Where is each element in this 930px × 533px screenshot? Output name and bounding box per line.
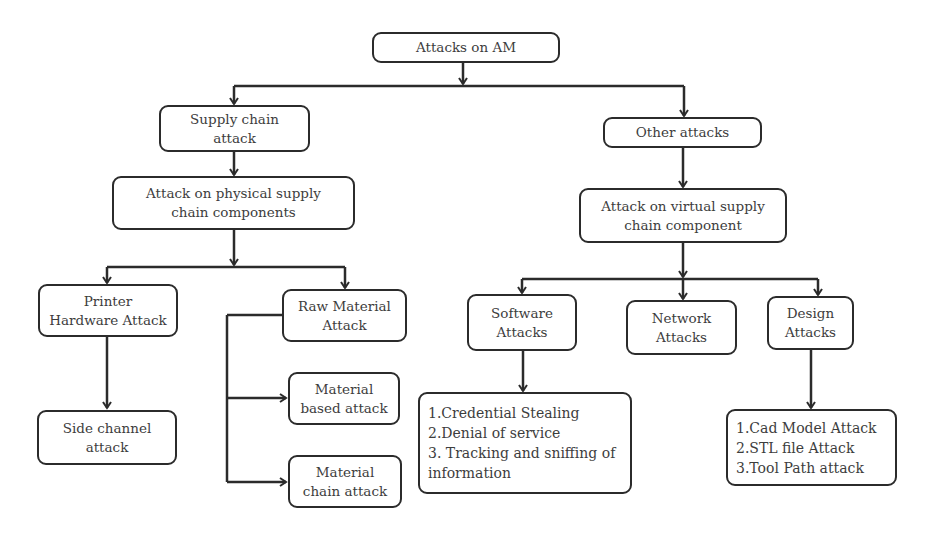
list-item: 3. Tracking and sniffing of (428, 443, 615, 463)
node-label: attack (86, 438, 129, 457)
node-label: Side channel (63, 419, 152, 438)
list-item: 2.Denial of service (428, 423, 560, 443)
node-other-attacks: Other attacks (603, 117, 762, 148)
node-label: Raw Material (298, 297, 391, 316)
node-label: Attacks (496, 323, 547, 342)
node-label: chain component (624, 216, 742, 235)
list-item: 1.Cad Model Attack (736, 418, 877, 438)
node-label: Attack on virtual supply (601, 197, 765, 216)
node-side-channel-attack: Side channel attack (37, 410, 177, 465)
node-label: Supply chain (190, 110, 279, 129)
list-item: information (428, 463, 511, 483)
node-label: Attack on physical supply (146, 184, 321, 203)
node-label: Network (652, 309, 712, 328)
node-raw-material-attack: Raw Material Attack (282, 289, 407, 342)
node-physical-supply-chain: Attack on physical supply chain componen… (112, 176, 355, 230)
list-item: 3.Tool Path attack (736, 458, 864, 478)
node-label: Hardware Attack (49, 311, 166, 330)
attack-taxonomy-diagram: Attacks on AM Supply chain attack Other … (0, 0, 930, 533)
node-label: chain attack (303, 482, 387, 501)
node-software-attacks: Software Attacks (467, 294, 577, 351)
node-network-attacks: Network Attacks (626, 300, 737, 355)
node-label: based attack (300, 399, 387, 418)
node-attacks-on-am: Attacks on AM (372, 32, 560, 63)
node-label: Other attacks (636, 123, 730, 142)
node-printer-hardware-attack: Printer Hardware Attack (38, 284, 178, 337)
node-virtual-supply-chain: Attack on virtual supply chain component (579, 188, 787, 243)
node-material-chain-attack: Material chain attack (288, 455, 402, 508)
node-label: Attacks (785, 323, 836, 342)
node-label: chain components (171, 203, 296, 222)
node-label: Material (316, 463, 374, 482)
node-label: Attacks (656, 328, 707, 347)
node-label: Attack (322, 316, 366, 335)
node-design-attacks: Design Attacks (767, 296, 854, 350)
node-supply-chain-attack: Supply chain attack (159, 105, 310, 152)
node-design-attack-list: 1.Cad Model Attack 2.STL file Attack 3.T… (726, 409, 897, 486)
node-label: Software (491, 304, 553, 323)
list-item: 2.STL file Attack (736, 438, 854, 458)
node-label: Attacks on AM (416, 38, 516, 57)
list-item: 1.Credential Stealing (428, 403, 579, 423)
node-software-attack-list: 1.Credential Stealing 2.Denial of servic… (418, 392, 632, 494)
node-label: Printer (84, 292, 132, 311)
node-label: Material (315, 380, 373, 399)
node-material-based-attack: Material based attack (288, 372, 400, 425)
node-label: Design (787, 304, 834, 323)
node-label: attack (213, 129, 256, 148)
